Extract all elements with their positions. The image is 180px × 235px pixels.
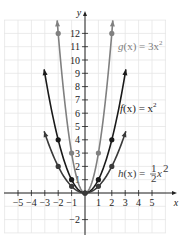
- svg-text:7: 7: [75, 94, 80, 105]
- svg-text:−1: −1: [66, 197, 77, 208]
- svg-text:11: 11: [70, 41, 80, 52]
- svg-text:10: 10: [70, 55, 80, 66]
- data-point: [96, 151, 101, 156]
- svg-text:5: 5: [150, 197, 155, 208]
- data-point: [56, 164, 61, 169]
- svg-text:2: 2: [163, 162, 169, 174]
- data-point: [96, 177, 101, 182]
- svg-text:8: 8: [75, 81, 80, 92]
- svg-text:6: 6: [75, 108, 80, 119]
- svg-text:1: 1: [96, 197, 101, 208]
- arrowhead-icon: [122, 131, 127, 137]
- parabola-chart: −5−4−3−2−112345−2123456789101112xy g(x) …: [0, 0, 180, 235]
- svg-text:5: 5: [75, 121, 80, 132]
- data-point: [56, 137, 61, 142]
- svg-text:2: 2: [75, 161, 80, 172]
- data-point: [109, 31, 114, 36]
- svg-text:4: 4: [75, 134, 80, 145]
- svg-text:y: y: [76, 7, 82, 18]
- arrowhead-icon: [44, 131, 49, 137]
- data-point: [69, 177, 74, 182]
- svg-text:2: 2: [109, 197, 114, 208]
- svg-text:4: 4: [136, 197, 141, 208]
- data-point: [56, 31, 61, 36]
- label-g: g(x) = 3x2: [118, 39, 163, 53]
- svg-text:9: 9: [75, 68, 80, 79]
- x-axis-arrow-icon: [172, 191, 177, 195]
- data-point: [69, 151, 74, 156]
- label-f: f(x) = x2: [120, 101, 157, 115]
- svg-text:−3: −3: [39, 197, 50, 208]
- svg-text:−2: −2: [53, 197, 64, 208]
- data-point: [82, 190, 87, 195]
- svg-text:3: 3: [123, 197, 128, 208]
- data-point: [96, 184, 101, 189]
- svg-text:−5: −5: [13, 197, 24, 208]
- svg-text:3: 3: [75, 148, 80, 159]
- svg-text:x: x: [156, 167, 162, 179]
- svg-text:12: 12: [70, 28, 80, 39]
- data-point: [69, 184, 74, 189]
- svg-text:x: x: [173, 197, 179, 208]
- svg-text:2: 2: [151, 172, 157, 184]
- data-point: [109, 164, 114, 169]
- svg-text:−4: −4: [26, 197, 37, 208]
- svg-text:h(x) =: h(x) =: [118, 167, 145, 180]
- y-axis-arrow-icon: [83, 11, 87, 16]
- data-point: [109, 137, 114, 142]
- svg-text:−2: −2: [69, 214, 80, 225]
